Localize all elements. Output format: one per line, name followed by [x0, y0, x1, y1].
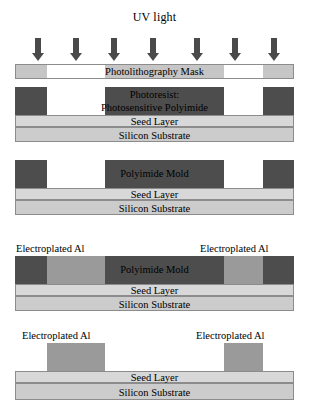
seed-layer-label: Seed Layer — [16, 285, 293, 296]
stage-4-al-caption-left: Electroplated Al — [16, 243, 85, 254]
polyimide-mold-center — [105, 256, 224, 284]
stage-1-mask-group: Photolithography Mask — [15, 64, 294, 79]
silicon-substrate-label: Silicon Substrate — [16, 203, 293, 214]
seed-layer-label: Seed Layer — [16, 372, 293, 383]
uv-light-title: UV light — [0, 10, 309, 25]
seed-layer-block: Seed Layer — [15, 371, 294, 383]
stage-5-al-caption-left: Electroplated Al — [22, 330, 91, 341]
seed-layer-block: Seed Layer — [15, 115, 294, 127]
stage-4-group: Polyimide Mold Seed Layer Silicon Substr… — [15, 256, 294, 311]
photoresist-block-left — [15, 87, 47, 115]
uv-arrow-shaft — [271, 38, 277, 54]
electroplated-al-left — [47, 256, 105, 284]
polyimide-mold-left — [15, 256, 47, 284]
uv-arrow-head — [147, 53, 159, 61]
silicon-substrate-label: Silicon Substrate — [16, 130, 293, 141]
seed-layer-block: Seed Layer — [15, 284, 294, 296]
uv-arrow-head — [108, 53, 120, 61]
mask-chrome-center — [105, 65, 224, 78]
stage-2-group: Photoresist: Photosensitive Polyimide Se… — [15, 87, 294, 142]
uv-arrow-shaft — [232, 38, 238, 54]
uv-arrow-shaft — [35, 38, 41, 54]
silicon-substrate-block: Silicon Substrate — [15, 383, 294, 400]
uv-arrow-head — [32, 53, 44, 61]
polyimide-mold-right — [263, 160, 294, 188]
stage-5-group: Seed Layer Silicon Substrate — [15, 343, 294, 398]
uv-arrow-shaft — [194, 38, 200, 54]
mask-chrome-left — [16, 65, 47, 78]
exposed-gap-left — [47, 87, 105, 115]
mask-chrome-right — [263, 65, 293, 78]
silicon-substrate-block: Silicon Substrate — [15, 200, 294, 215]
silicon-substrate-label: Silicon Substrate — [16, 299, 293, 310]
uv-arrow-shaft — [111, 38, 117, 54]
exposed-gap-right — [224, 87, 263, 115]
uv-arrow-head — [268, 53, 280, 61]
silicon-substrate-block: Silicon Substrate — [15, 296, 294, 311]
polyimide-mold-center — [105, 160, 224, 188]
uv-arrow-head — [70, 53, 82, 61]
electroplated-al-right — [224, 256, 263, 284]
stage-3-group: Polyimide Mold Seed Layer Silicon Substr… — [15, 160, 294, 215]
polyimide-mold-right — [263, 256, 294, 284]
seed-layer-block: Seed Layer — [15, 188, 294, 200]
stage-5-al-caption-right: Electroplated Al — [196, 330, 265, 341]
uv-arrow-shaft — [150, 38, 156, 54]
electroplated-al-left — [47, 343, 105, 371]
seed-layer-label: Seed Layer — [16, 116, 293, 127]
photoresist-block-center — [105, 87, 224, 115]
uv-arrow-head — [191, 53, 203, 61]
uv-arrow-head — [229, 53, 241, 61]
stage-4-al-caption-right: Electroplated Al — [200, 243, 269, 254]
uv-arrow-shaft — [73, 38, 79, 54]
polyimide-mold-left — [15, 160, 47, 188]
seed-layer-label: Seed Layer — [16, 189, 293, 200]
photoresist-block-right — [263, 87, 294, 115]
silicon-substrate-block: Silicon Substrate — [15, 127, 294, 142]
silicon-substrate-label: Silicon Substrate — [16, 387, 293, 398]
electroplated-al-right — [224, 343, 263, 371]
process-flow-figure: UV light Photolithography Mask — [0, 0, 309, 417]
